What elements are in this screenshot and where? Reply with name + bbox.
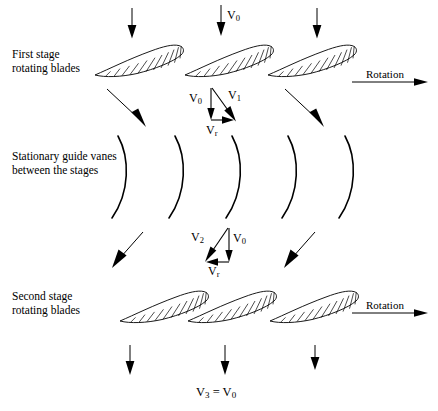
guide-vane-2: [169, 136, 183, 218]
inlet-velocity-label: V0: [227, 8, 240, 23]
triangle-one-axial-symbol: V: [189, 91, 198, 105]
outlet-equals: =: [210, 385, 223, 399]
triangle-one-relative-symbol: V: [228, 88, 237, 102]
guide-vane-row: [112, 136, 353, 218]
rotation-label-bottom: Rotation: [366, 299, 404, 312]
outlet-arrow-right: [311, 345, 320, 370]
triangle-two-tangential-label: Vr: [208, 264, 220, 279]
turbine-stage-diagram: First stage rotating blades Stationary g…: [0, 0, 438, 411]
second-stage-label-line2: rotating blades: [12, 304, 80, 318]
inlet-arrow-group: [128, 5, 322, 39]
second-stage-label-line1: Second stage: [12, 290, 80, 304]
inlet-arrow-center: [217, 5, 226, 36]
triangle-two-absolute-symbol: V: [191, 230, 200, 244]
stage1-exit-arrow-left: [107, 89, 146, 127]
second-stage-label: Second stage rotating blades: [12, 290, 80, 317]
first-stage-blade-1: [95, 45, 183, 76]
first-stage-label-line1: First stage: [12, 48, 80, 62]
triangle-two-tangential-symbol: V: [208, 264, 217, 278]
inlet-arrow-right: [313, 8, 322, 39]
outlet-arrow-group: [126, 345, 320, 375]
triangle-one-relative-label: V1: [228, 88, 241, 103]
outlet-right-symbol: V: [223, 385, 232, 399]
triangle-two-axial-sub: 0: [242, 236, 246, 246]
triangle-two-axial-label: V0: [233, 231, 246, 246]
first-stage-label-line2: rotating blades: [12, 62, 80, 76]
triangle-two-tangential-sub: r: [217, 269, 220, 279]
rotation-label-top: Rotation: [366, 68, 404, 81]
inlet-arrow-left: [128, 8, 137, 39]
first-stage-blade-3: [268, 45, 356, 76]
triangle-one-relative-sub: 1: [237, 93, 241, 103]
first-stage-blade-row: [95, 45, 356, 76]
first-stage-blade-2: [185, 45, 273, 76]
guide-vanes-label: Stationary guide vanes between the stage…: [12, 150, 117, 177]
stage1-exit-arrow-right: [285, 89, 324, 127]
triangle-one-tangential-label: Vr: [206, 123, 218, 138]
outlet-arrow-left: [126, 345, 135, 375]
vane-exit-arrow-right: [284, 232, 315, 268]
guide-vanes-label-line1: Stationary guide vanes: [12, 150, 117, 164]
stage1-exit-arrow-group: [107, 89, 324, 127]
guide-vanes-label-line2: between the stages: [12, 164, 117, 178]
vane-exit-arrow-left: [112, 232, 143, 268]
triangle-two-absolute-label: V2: [191, 230, 204, 245]
inlet-velocity-sub: 0: [236, 13, 240, 23]
triangle-one-tangential-sub: r: [215, 128, 218, 138]
guide-vane-4: [282, 136, 296, 218]
inlet-velocity-symbol: V: [227, 8, 236, 22]
second-stage-blade-3: [270, 291, 358, 322]
triangle-one-axial-label: V0: [189, 91, 202, 106]
outlet-velocity-label: V3 = V0: [196, 385, 236, 401]
guide-vane-3: [226, 136, 240, 218]
triangle-one-axial-sub: 0: [198, 96, 202, 106]
second-stage-blade-row: [120, 291, 358, 322]
velocity-triangle-two: [205, 228, 233, 266]
outlet-arrow-center: [221, 345, 230, 375]
outlet-right-sub: 0: [232, 390, 237, 400]
first-stage-label: First stage rotating blades: [12, 48, 80, 75]
outlet-left-symbol: V: [196, 385, 205, 399]
triangle-one-tangential-symbol: V: [206, 123, 215, 137]
triangle-two-axial-symbol: V: [233, 231, 242, 245]
guide-vane-5: [339, 136, 353, 218]
triangle-two-absolute-sub: 2: [200, 235, 204, 245]
